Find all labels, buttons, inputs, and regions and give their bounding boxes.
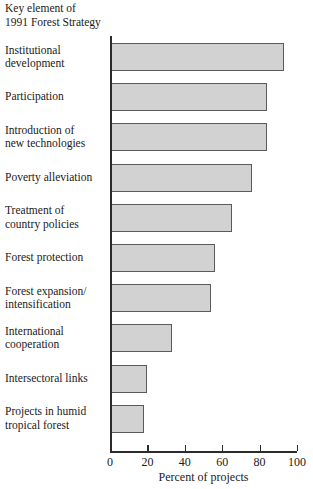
bar xyxy=(110,405,144,433)
category-label: Intersectoral links xyxy=(5,372,108,386)
y-axis-line xyxy=(110,36,112,452)
x-axis-tick xyxy=(297,445,298,451)
bar xyxy=(110,164,252,192)
category-label: Poverty alleviation xyxy=(5,171,108,185)
category-label: Forest protection xyxy=(5,251,108,265)
x-axis-tick xyxy=(185,445,186,451)
bar xyxy=(110,365,147,393)
bar-row: International cooperation xyxy=(0,324,313,352)
bar xyxy=(110,244,215,272)
bar xyxy=(110,43,284,71)
bar xyxy=(110,324,172,352)
bar-row: Poverty alleviation xyxy=(0,164,313,192)
category-label: Treatment of country policies xyxy=(5,204,108,231)
bar xyxy=(110,284,211,312)
category-label: Introduction of new technologies xyxy=(5,124,108,151)
bar xyxy=(110,204,232,232)
category-label: Forest expansion/ intensification xyxy=(5,285,108,312)
bar-row: Institutional development xyxy=(0,43,313,71)
x-axis-tick xyxy=(260,445,261,451)
x-axis-tick xyxy=(222,445,223,451)
bar-row: Treatment of country policies xyxy=(0,204,313,232)
bar-row: Forest expansion/ intensification xyxy=(0,284,313,312)
bar xyxy=(110,123,267,151)
x-axis-tick xyxy=(147,445,148,451)
x-axis-tick xyxy=(110,445,111,451)
chart-header-title: Key element of 1991 Forest Strategy xyxy=(5,1,155,29)
category-label: Projects in humid tropical forest xyxy=(5,405,108,432)
x-axis-tick-label: 60 xyxy=(216,455,228,469)
x-axis-tick-label: 40 xyxy=(179,455,191,469)
x-axis-label: Percent of projects xyxy=(110,470,297,485)
bar-row: Participation xyxy=(0,83,313,111)
category-label: Participation xyxy=(5,90,108,104)
category-label: Institutional development xyxy=(5,44,108,71)
category-label: International cooperation xyxy=(5,325,108,352)
bar-row: Intersectoral links xyxy=(0,365,313,393)
x-axis-tick-label: 0 xyxy=(107,455,113,469)
x-axis-tick-label: 20 xyxy=(141,455,153,469)
bar-chart: Key element of 1991 Forest Strategy Inst… xyxy=(0,0,313,489)
bar-row: Forest protection xyxy=(0,244,313,272)
plot-area: Institutional developmentParticipationIn… xyxy=(0,36,313,451)
x-axis-tick-label: 80 xyxy=(254,455,266,469)
bar xyxy=(110,83,267,111)
bar-row: Introduction of new technologies xyxy=(0,123,313,151)
x-axis-tick-label: 100 xyxy=(288,455,306,469)
x-axis-line xyxy=(110,451,297,453)
bar-row: Projects in humid tropical forest xyxy=(0,405,313,433)
